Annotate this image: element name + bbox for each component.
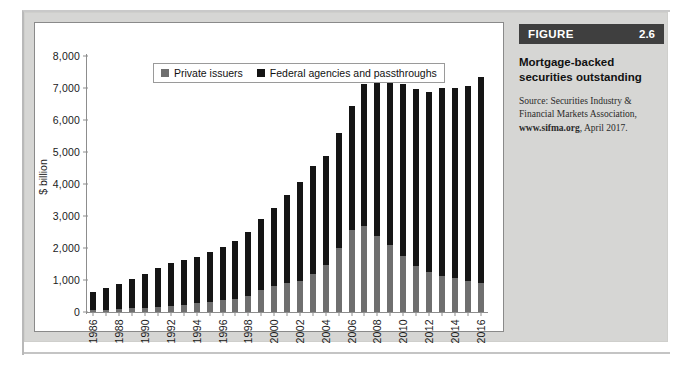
bar-slot	[461, 56, 474, 312]
x-tick-mark	[145, 312, 146, 316]
bar-slot	[203, 56, 216, 312]
bar-slot: 2008	[371, 56, 384, 312]
figure-source: Source: Securities Industry & Financial …	[519, 95, 651, 135]
x-tick-mark	[157, 312, 158, 316]
x-tick-mark	[364, 312, 365, 316]
bar-segment-private	[439, 276, 445, 312]
bar-slot: 2006	[345, 56, 358, 312]
x-tick-mark	[222, 312, 223, 316]
bar-slot: 2002	[294, 56, 307, 312]
bar-segment-federal	[258, 219, 264, 290]
bar-2003	[310, 166, 316, 312]
x-tick-label: 2004	[320, 319, 332, 344]
bar-slot	[100, 56, 113, 312]
x-tick-mark	[119, 312, 120, 316]
bar-segment-federal	[181, 260, 187, 304]
x-tick-mark	[390, 312, 391, 316]
legend-item-private: Private issuers	[161, 67, 243, 79]
x-tick-mark	[287, 312, 288, 316]
bar-segment-private	[297, 281, 303, 312]
bar-2013	[439, 88, 445, 312]
x-tick-mark	[93, 312, 94, 316]
bar-slot: 1998	[242, 56, 255, 312]
y-tick-label: 2,000	[53, 242, 87, 254]
figure-label: FIGURE	[528, 28, 574, 40]
bar-2002	[297, 182, 303, 312]
bar-2004	[323, 156, 329, 312]
bar-slot	[126, 56, 139, 312]
bar-series-group: 1986198819901992199419961998200020022004…	[87, 56, 487, 312]
bar-slot: 2012	[423, 56, 436, 312]
chart-legend: Private issuers Federal agencies and pas…	[153, 63, 445, 83]
bar-segment-private	[361, 226, 367, 312]
bar-segment-federal	[310, 166, 316, 274]
bar-segment-federal	[116, 284, 122, 309]
x-tick-mark	[351, 312, 352, 316]
bar-segment-federal	[349, 106, 355, 230]
x-tick-mark	[235, 312, 236, 316]
bar-segment-federal	[245, 232, 251, 296]
bar-segment-federal	[90, 292, 96, 310]
bar-segment-private	[387, 245, 393, 312]
bar-segment-private	[400, 256, 406, 312]
y-tick-label: 7,000	[53, 82, 87, 94]
bar-slot: 1990	[139, 56, 152, 312]
bar-segment-federal	[478, 77, 484, 284]
x-tick-mark	[248, 312, 249, 316]
x-tick-label: 1996	[217, 319, 229, 344]
bar-1993	[181, 260, 187, 312]
bar-2010	[400, 84, 406, 312]
bar-segment-private	[374, 236, 380, 312]
bar-segment-private	[413, 266, 419, 312]
bar-segment-federal	[400, 84, 406, 256]
bar-segment-private	[284, 283, 290, 312]
x-tick-mark	[416, 312, 417, 316]
bar-segment-federal	[336, 133, 342, 248]
bar-slot	[255, 56, 268, 312]
bar-segment-federal	[103, 288, 109, 310]
x-tick-label: 2006	[346, 319, 358, 344]
bar-segment-federal	[284, 195, 290, 283]
y-tick-label: 1,000	[53, 274, 87, 286]
x-tick-mark	[209, 312, 210, 316]
figure-title: Mortgage-backed securities outstanding	[519, 55, 659, 86]
page-bottom-rule	[24, 352, 670, 354]
bar-1999	[258, 219, 264, 312]
bar-slot: 1994	[190, 56, 203, 312]
y-tick-label: 4,000	[53, 178, 87, 190]
x-tick-label: 1986	[87, 319, 99, 344]
x-tick-mark	[196, 312, 197, 316]
bar-1990	[142, 274, 148, 312]
bar-slot: 2000	[268, 56, 281, 312]
x-tick-mark	[299, 312, 300, 316]
bar-2001	[284, 195, 290, 312]
bar-segment-federal	[387, 78, 393, 244]
plot: 01,0002,0003,0004,0005,0006,0007,0008,00…	[87, 56, 487, 312]
bar-2008	[374, 78, 380, 312]
bar-2015	[465, 86, 471, 312]
bar-slot: 2004	[319, 56, 332, 312]
bar-segment-private	[271, 286, 277, 312]
y-tick-label: 5,000	[53, 146, 87, 158]
bar-segment-federal	[323, 156, 329, 265]
x-tick-label: 2008	[371, 319, 383, 344]
x-tick-mark	[312, 312, 313, 316]
bar-segment-private	[181, 305, 187, 312]
bar-slot	[229, 56, 242, 312]
bar-segment-federal	[439, 88, 445, 276]
bar-segment-private	[258, 290, 264, 312]
x-tick-mark	[467, 312, 468, 316]
bar-segment-federal	[168, 263, 174, 305]
bar-segment-private	[194, 303, 200, 312]
bar-1996	[220, 247, 226, 312]
x-tick-mark	[403, 312, 404, 316]
bar-2011	[413, 89, 419, 312]
bar-2009	[387, 78, 393, 312]
x-tick-mark	[429, 312, 430, 316]
bar-1988	[116, 284, 122, 312]
legend-label-private: Private issuers	[174, 67, 243, 79]
bar-segment-federal	[361, 84, 367, 226]
bar-segment-private	[245, 296, 251, 312]
bar-segment-private	[452, 278, 458, 312]
x-tick-label: 2016	[475, 319, 487, 344]
